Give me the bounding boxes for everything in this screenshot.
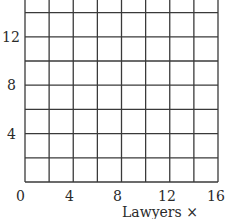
x-tick-0: 0: [16, 189, 25, 203]
y-tick-4: 4: [7, 127, 16, 141]
x-axis-label: Lawyers × 1,000: [122, 205, 230, 219]
x-tick-12: 12: [158, 189, 176, 203]
y-tick-8: 8: [7, 78, 16, 92]
x-tick-8: 8: [113, 189, 122, 203]
chart-grid: [0, 0, 230, 219]
x-tick-16: 16: [207, 189, 225, 203]
chart: 12 8 4 0 4 8 12 16 Lawyers × 1,000: [0, 0, 230, 219]
y-tick-12: 12: [2, 30, 20, 44]
x-tick-4: 4: [65, 189, 74, 203]
